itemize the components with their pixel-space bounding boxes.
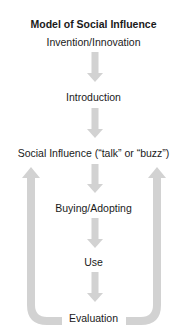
diagram-title: Model of Social Influence	[0, 18, 187, 30]
down-arrow-icon	[87, 52, 103, 82]
right-feedback-arrowhead-icon	[148, 167, 166, 178]
step-use: Use	[0, 256, 187, 268]
step-invention: Invention/Innovation	[0, 36, 187, 48]
step-introduction: Introduction	[0, 91, 187, 103]
step-evaluation: Evaluation	[0, 312, 187, 324]
step-buying-adopting: Buying/Adopting	[0, 202, 187, 214]
down-arrow-icon	[87, 218, 103, 248]
right-feedback-arrow-icon	[126, 177, 157, 321]
down-arrow-icon	[87, 108, 103, 138]
arrows-layer	[0, 0, 187, 335]
step-social-influence: Social Influence (“talk” or “buzz”)	[0, 147, 187, 159]
left-feedback-arrowhead-icon	[22, 167, 40, 178]
down-arrow-icon	[87, 164, 103, 193]
left-feedback-arrow-icon	[31, 177, 62, 321]
down-arrow-icon	[87, 272, 103, 302]
